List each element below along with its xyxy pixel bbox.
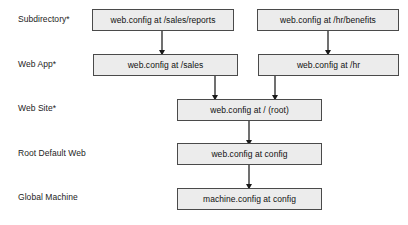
node-web-config-sales[interactable]: web.config at /sales <box>93 54 238 76</box>
tier-label-subdirectory: Subdirectory* <box>18 15 70 24</box>
tier-label-root-default-web: Root Default Web <box>18 149 86 158</box>
node-machine-config-config[interactable]: machine.config at config <box>177 188 322 210</box>
node-label: web.config at config <box>211 150 287 159</box>
config-hierarchy-diagram: Subdirectory* Web App* Web Site* Root De… <box>0 0 408 225</box>
tier-label-web-site: Web Site* <box>18 104 56 113</box>
tier-label-web-app: Web App* <box>18 60 56 69</box>
node-web-config-sales-reports[interactable]: web.config at /sales/reports <box>92 9 234 31</box>
tier-label-global-machine: Global Machine <box>18 193 78 202</box>
node-label: web.config at / (root) <box>210 106 289 115</box>
node-label: web.config at /hr <box>297 61 360 70</box>
node-label: web.config at /hr/benefits <box>280 16 376 25</box>
node-web-config-hr-benefits[interactable]: web.config at /hr/benefits <box>257 9 399 31</box>
node-label: web.config at /sales/reports <box>111 16 216 25</box>
node-web-config-hr[interactable]: web.config at /hr <box>258 54 399 76</box>
node-web-config-root[interactable]: web.config at / (root) <box>177 99 322 121</box>
node-label: web.config at /sales <box>128 61 204 70</box>
node-label: machine.config at config <box>203 195 296 204</box>
node-web-config-config[interactable]: web.config at config <box>177 143 322 165</box>
